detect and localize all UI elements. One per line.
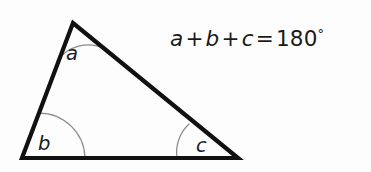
angle-label-c: c [196,134,207,157]
angle-sum-equation: a+b+c=180° [170,28,360,50]
angle-label-b: b [38,132,50,155]
equation-plus-2: + [219,26,241,51]
degree-symbol-icon: ° [318,26,325,41]
equation-term-c: c [242,26,254,51]
triangle-angle-sum-figure: a b c a+b+c=180° [0,0,371,172]
equation-equals-sign: = [254,26,276,51]
equation-term-b: b [206,26,220,51]
equation-plus-1: + [183,26,205,51]
angle-label-a: a [66,42,78,65]
equation-value: 180 [276,26,318,51]
angle-arc-c [177,124,189,158]
equation-term-a: a [170,26,183,51]
